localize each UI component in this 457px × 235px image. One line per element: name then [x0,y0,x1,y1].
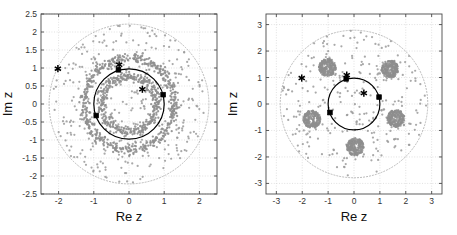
svg-text:-1: -1 [90,196,98,206]
svg-text:2: 2 [403,196,408,206]
svg-text:0: 0 [127,196,132,206]
svg-text:-2: -2 [254,152,262,162]
y-axis-label: Im z [0,92,15,117]
svg-text:-1: -1 [29,135,37,145]
svg-text:2: 2 [257,46,262,56]
svg-text:-3: -3 [254,178,262,188]
svg-text:-2: -2 [298,196,306,206]
svg-text:-2: -2 [55,196,63,206]
svg-text:-2.5: -2.5 [22,189,37,199]
x-axis-label: Re z [341,209,368,224]
right-panel-canvas: -3-2-10123-3-2-10123Re zIm z [228,0,457,235]
svg-text:0.5: 0.5 [25,81,37,91]
svg-text:2.5: 2.5 [25,9,37,19]
svg-text:1: 1 [162,196,167,206]
figure-root: -2-1012-2.5-2-1.5-1-0.500.511.522.5Re zI… [0,0,457,235]
svg-text:1: 1 [378,196,383,206]
svg-text:-1: -1 [254,125,262,135]
svg-text:1.5: 1.5 [25,45,37,55]
y-axis-label: Im z [228,92,240,117]
svg-text:-1: -1 [324,196,332,206]
svg-text:2: 2 [197,196,202,206]
svg-text:3: 3 [429,196,434,206]
svg-text:1: 1 [257,73,262,83]
left-panel: -2-1012-2.5-2-1.5-1-0.500.511.522.5Re zI… [0,0,229,235]
svg-text:0: 0 [352,196,357,206]
svg-text:0: 0 [32,99,37,109]
svg-text:-3: -3 [273,196,281,206]
x-axis-label: Re z [116,209,143,224]
svg-text:1: 1 [32,63,37,73]
right-panel: -3-2-10123-3-2-10123Re zIm z [228,0,457,235]
svg-text:-2: -2 [29,171,37,181]
svg-text:3: 3 [257,20,262,30]
svg-text:-0.5: -0.5 [22,117,37,127]
svg-text:-1.5: -1.5 [22,153,37,163]
svg-text:0: 0 [257,99,262,109]
left-panel-canvas: -2-1012-2.5-2-1.5-1-0.500.511.522.5Re zI… [0,0,229,235]
svg-text:2: 2 [32,27,37,37]
